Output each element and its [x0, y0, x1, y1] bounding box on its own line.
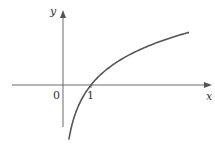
x-axis-label: x	[206, 91, 212, 102]
x-axis	[12, 82, 212, 88]
origin-label: 0	[53, 90, 60, 101]
y-axis	[60, 10, 66, 127]
ln-curve	[69, 32, 189, 139]
y-axis-arrow-icon	[60, 10, 66, 18]
y-axis-label: y	[50, 6, 56, 17]
tick-label-1: 1	[87, 90, 94, 101]
log-graph	[0, 0, 215, 153]
x-axis-arrow-icon	[204, 82, 212, 88]
